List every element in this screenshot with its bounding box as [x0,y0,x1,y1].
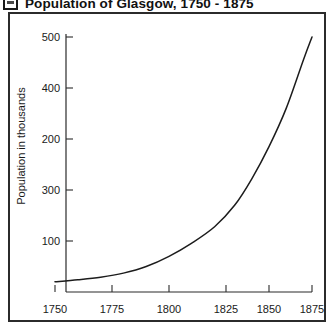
population-curve [55,37,312,282]
plot-area [0,0,334,331]
